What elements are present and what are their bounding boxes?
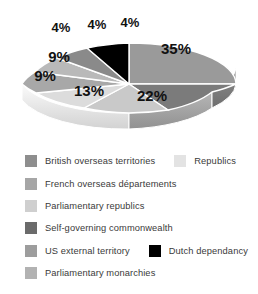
legend-row: Self-governing commonwealth (24, 217, 258, 239)
legend-label: Parliamentary republics (45, 201, 144, 211)
legend-swatch-icon (148, 244, 162, 258)
legend-row: Parliamentary monarchies (24, 262, 258, 284)
legend-item-parliamentary-republics[interactable]: Parliamentary republics (24, 199, 144, 213)
legend-swatch-icon (24, 177, 38, 191)
legend-label: Self-governing commonwealth (45, 223, 173, 233)
legend-row: Parliamentary republics (24, 195, 258, 217)
legend-row: French overseas départements (24, 172, 258, 194)
chart-legend: British overseas territories Republics F… (0, 148, 258, 294)
legend-label: Republics (194, 156, 236, 166)
pie-label-9-b: 9% (48, 48, 70, 65)
legend-swatch-icon (24, 199, 38, 213)
legend-label: Parliamentary monarchies (45, 268, 155, 278)
legend-label: US external territory (45, 246, 130, 256)
legend-row: US external territory Dutch dependancy (24, 240, 258, 262)
legend-swatch-icon (24, 154, 38, 168)
legend-item-republics[interactable]: Republics (173, 154, 236, 168)
legend-item-dutch-dependancy[interactable]: Dutch dependancy (148, 244, 248, 258)
pie-label-35: 35% (161, 40, 191, 57)
pie-label-13: 13% (74, 82, 104, 99)
pie-label-9-a: 9% (34, 67, 56, 84)
legend-item-parliamentary-monarchies[interactable]: Parliamentary monarchies (24, 266, 155, 280)
legend-swatch-icon (173, 154, 187, 168)
pie-label-4-a: 4% (52, 20, 71, 35)
pie-chart: 35% 22% 13% 9% 9% 4% 4% 4% (0, 0, 258, 150)
legend-swatch-icon (24, 221, 38, 235)
pie-chart-svg: 35% 22% 13% 9% 9% 4% 4% 4% (0, 0, 258, 150)
legend-label: French overseas départements (45, 179, 176, 189)
pie-label-22: 22% (137, 87, 167, 104)
legend-label: British overseas territories (45, 156, 155, 166)
legend-item-british-overseas-territories[interactable]: British overseas territories (24, 154, 155, 168)
legend-item-us-external-territory[interactable]: US external territory (24, 244, 130, 258)
pie-label-4-b: 4% (88, 17, 107, 32)
legend-item-self-governing-commonwealth[interactable]: Self-governing commonwealth (24, 221, 173, 235)
pie-label-4-c: 4% (121, 15, 140, 30)
legend-label: Dutch dependancy (169, 246, 248, 256)
legend-item-french-overseas-departements[interactable]: French overseas départements (24, 177, 176, 191)
legend-row: British overseas territories Republics (24, 150, 258, 172)
legend-swatch-icon (24, 266, 38, 280)
legend-swatch-icon (24, 244, 38, 258)
